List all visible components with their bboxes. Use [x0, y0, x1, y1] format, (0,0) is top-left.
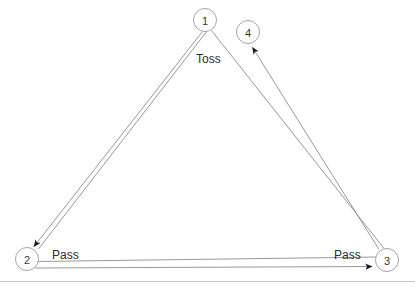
node-3-label: 3	[384, 255, 390, 267]
edge-label-toss: Toss	[196, 52, 221, 66]
node-1-label: 1	[202, 15, 208, 27]
edge-2-to-3	[35, 257, 379, 268]
edge-1-to-2-line-outer	[34, 32, 203, 247]
diagram-canvas: 1 4 2 3 Toss Pass Pass	[0, 0, 415, 290]
edge-3-to-4-line-outer	[253, 48, 380, 250]
edge-3-to-4-line-inner	[212, 31, 385, 249]
edge-2-to-3-line-upper	[35, 257, 379, 262]
edge-3-to-4	[212, 31, 385, 250]
edge-label-pass-right: Pass	[334, 248, 361, 262]
edge-1-to-2-line-inner	[39, 31, 208, 249]
edge-1-to-2	[34, 31, 207, 249]
node-4-label: 4	[245, 27, 251, 39]
node-2[interactable]: 2	[16, 248, 39, 271]
node-2-label: 2	[24, 254, 30, 266]
node-4[interactable]: 4	[237, 21, 260, 44]
node-link-diagram: 1 4 2 3 Toss Pass Pass	[0, 0, 415, 290]
edge-label-pass-left: Pass	[52, 248, 79, 262]
edge-2-to-3-line-lower	[36, 267, 373, 269]
node-1[interactable]: 1	[194, 9, 217, 32]
node-3[interactable]: 3	[376, 249, 399, 272]
